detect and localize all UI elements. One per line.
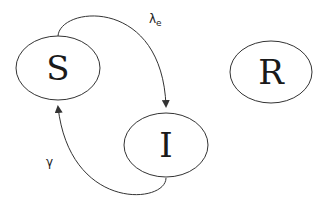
node-r-label: R	[258, 52, 285, 92]
node-s-label: S	[46, 48, 69, 88]
edge-label-gamma: γ	[46, 155, 53, 169]
node-i: I	[124, 113, 208, 177]
node-i-label: I	[159, 125, 172, 165]
sir-diagram: λe γ S I R	[0, 0, 330, 211]
node-r: R	[230, 41, 312, 103]
node-s: S	[16, 36, 100, 100]
edge-label-lambda-e: λe	[149, 12, 162, 28]
